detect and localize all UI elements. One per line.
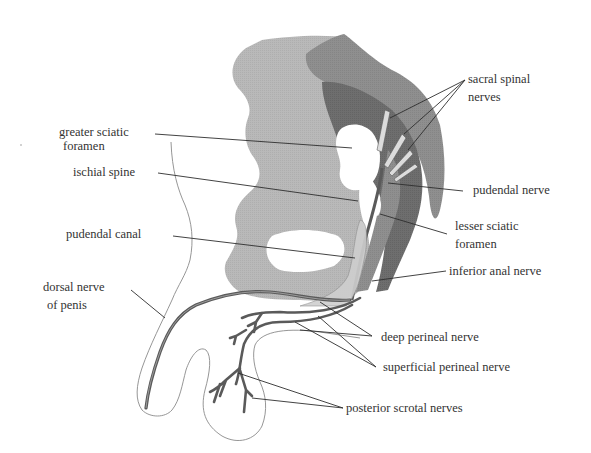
label-inferior-anal-nerve: inferior anal nerve (449, 264, 541, 278)
label-dorsal-nerve-of-penis: dorsal nerve of penis (43, 280, 104, 312)
label-line: of penis (43, 298, 104, 312)
label-line: greater sciatic (59, 125, 129, 139)
label-line: deep perineal nerve (381, 330, 479, 344)
label-pudendal-canal: pudendal canal (66, 227, 141, 241)
label-line: foramen (455, 237, 519, 251)
label-line: superficial perineal nerve (383, 360, 510, 374)
label-line: lesser sciatic (455, 219, 519, 233)
stray-dot (20, 144, 22, 146)
label-superficial-perineal-nerve: superficial perineal nerve (383, 360, 510, 374)
label-line: dorsal nerve (43, 280, 104, 294)
label-lesser-sciatic-foramen: lesser sciatic foramen (455, 219, 519, 251)
label-deep-perineal-nerve: deep perineal nerve (381, 330, 479, 344)
label-line: ischial spine (73, 165, 135, 179)
label-line: nerves (468, 90, 530, 104)
label-line: sacral spinal (468, 72, 530, 86)
label-ischial-spine: ischial spine (73, 165, 135, 179)
label-posterior-scrotal-nerves: posterior scrotal nerves (346, 401, 463, 415)
label-line: pudendal canal (66, 227, 141, 241)
label-line: pudendal nerve (473, 183, 550, 197)
label-line: posterior scrotal nerves (346, 401, 463, 415)
label-line: inferior anal nerve (449, 264, 541, 278)
greater-sciatic-foramen-hole (336, 125, 380, 191)
perineal-nerves (210, 298, 360, 412)
label-line: foramen (59, 139, 129, 153)
label-sacral-spinal-nerves: sacral spinal nerves (468, 72, 530, 104)
label-greater-sciatic-foramen: greater sciatic foramen (59, 125, 129, 153)
obturator-foramen (266, 230, 344, 272)
label-pudendal-nerve: pudendal nerve (473, 183, 550, 197)
